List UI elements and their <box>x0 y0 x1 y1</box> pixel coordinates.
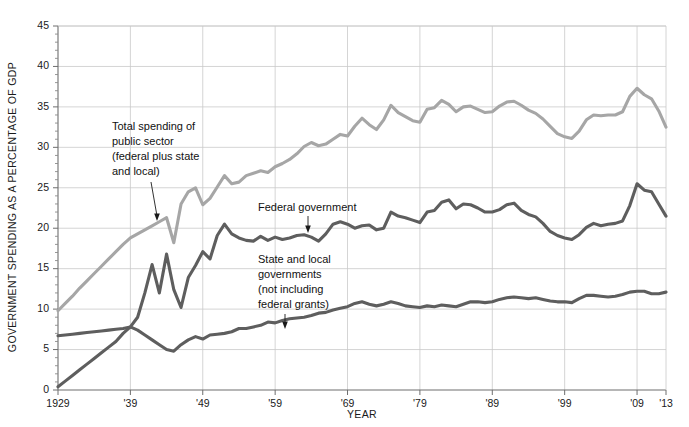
y-tick-label: 20 <box>37 221 49 233</box>
x-tick-label: '89 <box>485 397 499 409</box>
y-tick-label: 10 <box>37 302 49 314</box>
x-tick-label: '99 <box>558 397 572 409</box>
annotation-statelocal-line-3: (not including <box>258 283 323 295</box>
x-tick-label: '09 <box>630 397 644 409</box>
y-tick-label: 5 <box>43 342 49 354</box>
annotation-total-line-4: and local) <box>112 165 160 177</box>
y-tick-label: 15 <box>37 261 49 273</box>
x-tick-label: '79 <box>413 397 427 409</box>
annotation-statelocal-line-4: federal grants) <box>258 298 329 310</box>
y-tick-label: 0 <box>43 383 49 395</box>
x-tick-label: '13 <box>659 397 673 409</box>
y-tick-label: 35 <box>37 100 49 112</box>
chart-background <box>0 0 689 427</box>
government-spending-line-chart: 051015202530354045 1929'39'49'59'69'79'8… <box>0 0 689 427</box>
y-tick-label: 25 <box>37 181 49 193</box>
x-tick-label: '39 <box>124 397 138 409</box>
annotation-statelocal-line-1: State and local <box>258 253 331 265</box>
x-axis-title: YEAR <box>347 408 377 420</box>
y-tick-label: 30 <box>37 140 49 152</box>
annotation-total-line-2: public sector <box>112 135 174 147</box>
y-tick-label: 40 <box>37 59 49 71</box>
y-axis-title: GOVERNMENT SPENDING AS A PERCENTAGE OF G… <box>6 62 18 352</box>
annotation-statelocal-line-2: governments <box>258 268 322 280</box>
x-tick-label: '49 <box>196 397 210 409</box>
x-tick-label: '59 <box>268 397 282 409</box>
chart-container: 051015202530354045 1929'39'49'59'69'79'8… <box>0 0 689 427</box>
annotation-total-line-1: Total spending of <box>112 120 196 132</box>
annotation-total-line-3: (federal plus state <box>112 150 199 162</box>
y-tick-label: 45 <box>37 19 49 31</box>
annotation-federal-line-1: Federal government <box>258 201 356 213</box>
x-tick-label: 1929 <box>46 397 70 409</box>
